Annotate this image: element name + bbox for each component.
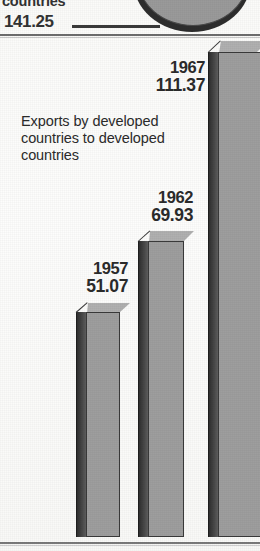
bar-1957 xyxy=(76,303,130,537)
cropped-caption-text: countries xyxy=(2,0,122,9)
bar-year-1962: 1962 xyxy=(98,188,193,206)
bar-label-1957: 1957 51.07 xyxy=(36,259,128,296)
bar-label-1962: 1962 69.93 xyxy=(98,188,193,225)
bar-1967 xyxy=(208,41,260,537)
bar-year-1967: 1967 xyxy=(128,58,205,76)
pie-chart-graphic xyxy=(133,0,251,34)
figure-canvas: countries 141.25 1967 111.37 Exports by … xyxy=(0,0,260,551)
bar-1967-front xyxy=(218,52,260,537)
bar-label-1967: 1967 111.37 xyxy=(128,58,205,95)
figure-caption: Exports by developed countries to develo… xyxy=(21,113,171,164)
baseline-rule-highlight xyxy=(0,545,260,546)
bar-value-1957: 51.07 xyxy=(36,277,128,296)
bar-year-1957: 1957 xyxy=(36,259,128,277)
leader-line xyxy=(72,25,160,28)
baseline-rule xyxy=(0,542,260,544)
divider-rule-top-highlight xyxy=(0,37,260,38)
value-label-141: 141.25 xyxy=(4,12,54,32)
bar-1957-front xyxy=(86,312,120,537)
bar-1962-front xyxy=(148,241,184,537)
bar-value-1967: 111.37 xyxy=(128,76,205,95)
bar-1962 xyxy=(138,231,194,537)
bar-value-1962: 69.93 xyxy=(98,206,193,225)
divider-rule-top xyxy=(0,34,260,36)
